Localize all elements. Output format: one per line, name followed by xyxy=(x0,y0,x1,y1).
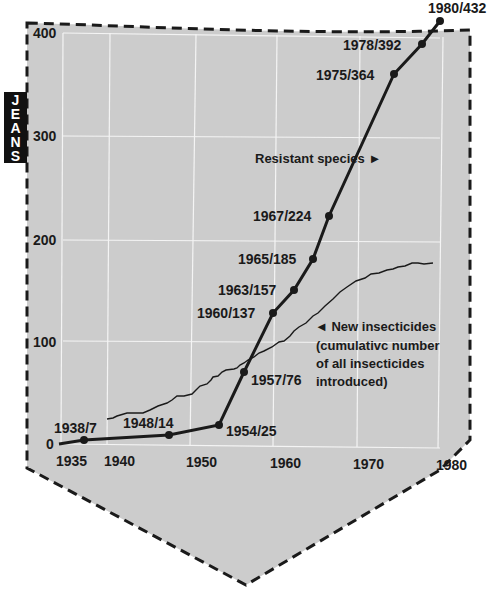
label-1954: 1954/25 xyxy=(226,423,277,439)
point-1978 xyxy=(418,40,426,48)
pest-resistance-chart: 400 300 200 100 0 1935 1940 1950 1960 19… xyxy=(0,0,498,598)
label-1948: 1948/14 xyxy=(123,415,174,431)
label-1963: 1963/157 xyxy=(218,282,277,298)
point-1954 xyxy=(215,421,223,429)
jeans-tab-label: J E A N S xyxy=(4,92,27,163)
x-tick-1940: 1940 xyxy=(104,453,135,469)
x-tick-1960: 1960 xyxy=(270,455,301,471)
y-tick-0: 0 xyxy=(46,436,54,452)
x-tick-1950: 1950 xyxy=(186,454,217,470)
new-insecticides-line-2: (cumulativc number xyxy=(316,338,440,353)
point-1960 xyxy=(269,309,277,317)
new-insecticides-line-4: introduced) xyxy=(316,374,388,389)
jeans-letter: N xyxy=(10,135,20,149)
x-tick-1980: 1980 xyxy=(436,457,467,473)
y-tick-100: 100 xyxy=(33,334,57,350)
y-tick-400: 400 xyxy=(33,25,57,41)
jeans-pocket-shape xyxy=(27,23,470,585)
point-1957 xyxy=(240,368,248,376)
point-1975 xyxy=(390,70,398,78)
jeans-letter: J xyxy=(12,93,20,107)
label-1938: 1938/7 xyxy=(54,420,97,436)
point-1965 xyxy=(309,255,317,263)
point-1963 xyxy=(290,286,298,294)
jeans-letter: A xyxy=(10,121,20,135)
x-tick-1970: 1970 xyxy=(353,456,384,472)
y-tick-200: 200 xyxy=(33,232,57,248)
y-tick-300: 300 xyxy=(33,128,57,144)
label-1965: 1965/185 xyxy=(238,251,297,267)
point-1980 xyxy=(436,17,444,25)
resistant-species-annotation: Resistant species ► xyxy=(255,151,381,166)
label-1978: 1978/392 xyxy=(343,37,402,53)
label-1960: 1960/137 xyxy=(197,305,256,321)
new-insecticides-line-3: of all insecticides xyxy=(316,356,424,371)
point-1967 xyxy=(325,212,333,220)
point-1948 xyxy=(165,431,173,439)
point-1938 xyxy=(80,436,88,444)
label-1967: 1967/224 xyxy=(253,208,312,224)
jeans-letter: S xyxy=(11,149,20,163)
label-1975: 1975/364 xyxy=(316,67,375,83)
label-1957: 1957/76 xyxy=(251,372,302,388)
new-insecticides-line-1: ◄ New insecticides xyxy=(315,319,436,334)
x-tick-1935: 1935 xyxy=(56,453,87,469)
jeans-letter: E xyxy=(11,107,20,121)
label-1980: 1980/432 xyxy=(428,0,487,16)
